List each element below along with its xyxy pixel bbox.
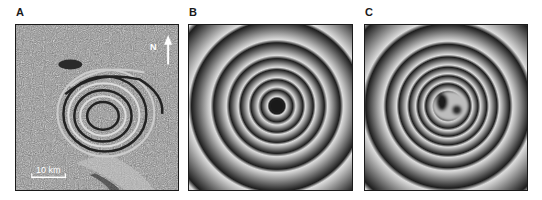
interferogram-b-image — [189, 25, 352, 190]
panel-b-model-interferogram — [188, 24, 353, 191]
panel-a-observed-interferogram: N 10 km — [15, 24, 179, 191]
panel-c-model-interferogram — [364, 24, 528, 191]
interferogram-c-image — [365, 25, 527, 190]
panel-label-b: B — [189, 6, 197, 18]
north-label: N — [150, 42, 157, 52]
panel-label-a: A — [16, 6, 24, 18]
panel-label-c: C — [365, 6, 373, 18]
scale-bar-label: 10 km — [36, 165, 61, 175]
